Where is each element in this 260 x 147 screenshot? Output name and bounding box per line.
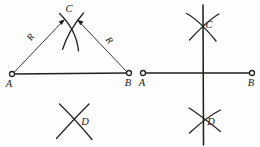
- label-point-b-right: B: [248, 77, 255, 88]
- label-point-a-left: A: [5, 78, 13, 89]
- label-radius-right: R: [103, 34, 115, 46]
- label-point-d-left: D: [80, 116, 89, 127]
- label-point-d-right: D: [206, 116, 215, 127]
- label-radius-left: R: [24, 32, 36, 44]
- geometry-figure: A B R R C D A B C D: [0, 0, 260, 147]
- label-point-c-right: C: [205, 19, 213, 30]
- label-point-a-right: A: [138, 77, 146, 88]
- label-point-c-left: C: [65, 3, 73, 14]
- label-layer: A B R R C D A B C D: [0, 0, 260, 147]
- label-point-b-left: B: [125, 77, 132, 88]
